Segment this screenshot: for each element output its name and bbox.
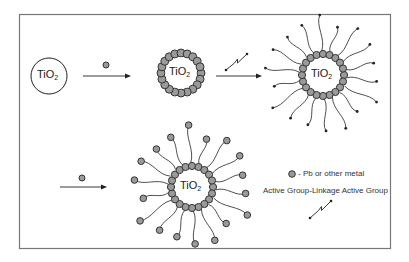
legend-metal-text: - Pb or other metal bbox=[298, 169, 364, 178]
legend-linker-text: Active Group-Linkage Active Group bbox=[263, 186, 388, 195]
arrow-add-linker bbox=[216, 53, 262, 79]
diagram-frame bbox=[20, 15, 391, 249]
arrow-add-metal bbox=[83, 62, 131, 79]
reaction-scheme-svg bbox=[0, 0, 409, 262]
core-label-4: TiO2 bbox=[180, 179, 201, 192]
diagram-canvas: TiO2 TiO2 TiO2 TiO2 - Pb or other metal … bbox=[0, 0, 409, 262]
core-label-1: TiO2 bbox=[37, 68, 58, 81]
core-label-2: TiO2 bbox=[169, 65, 190, 78]
arrow-add-metal-2 bbox=[60, 175, 107, 190]
core-label-3: TiO2 bbox=[311, 67, 332, 80]
